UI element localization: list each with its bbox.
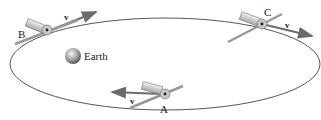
satellite-b: B v	[15, 12, 96, 44]
point-label-b: B	[18, 28, 25, 40]
earth-icon	[65, 48, 81, 64]
orbit-figure: Earth B v C v A v	[0, 0, 321, 120]
orbit-diagram: Earth B v C v A v	[0, 0, 321, 120]
satellite-center-b	[46, 29, 49, 32]
velocity-label-b: v	[64, 12, 69, 22]
velocity-label-a: v	[130, 96, 135, 106]
earth-label: Earth	[84, 50, 108, 62]
point-label-c: C	[264, 6, 271, 18]
point-label-a: A	[160, 103, 168, 115]
velocity-label-c: v	[285, 20, 290, 30]
earth: Earth	[65, 48, 108, 64]
satellite-center-a	[164, 93, 167, 96]
satellite-center-c	[261, 23, 264, 26]
